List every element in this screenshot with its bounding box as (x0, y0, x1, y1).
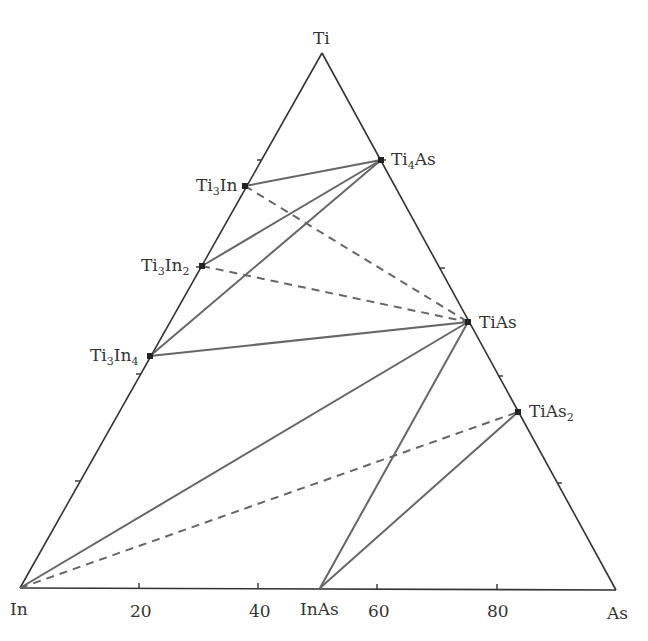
phase-label-tias: TiAs (479, 314, 517, 331)
triangle-edges (20, 53, 616, 590)
tie-inas-tias2 (320, 412, 518, 588)
phase-label-inas: InAs (300, 601, 339, 618)
point-tias2 (515, 409, 521, 415)
vertex-label-ti: Ti (313, 30, 330, 47)
ternary-diagram (0, 0, 648, 641)
tick-label-60: 60 (368, 603, 390, 620)
phase-label-ti3in2: Ti3In2 (141, 257, 189, 274)
tie-lines-solid (20, 160, 518, 588)
phase-label-tias2: TiAs2 (529, 403, 574, 420)
point-ti3in2 (199, 263, 205, 269)
tick-label-20: 20 (130, 603, 152, 620)
vertex-label-as: As (607, 605, 628, 622)
phase-label-ti4as: Ti4As (391, 151, 436, 168)
tie-in-tias2 (20, 412, 518, 588)
right-ticks (381, 160, 562, 483)
edge-in-ti (20, 53, 322, 588)
tie-in-tias (20, 322, 468, 588)
point-ti3in (242, 183, 248, 189)
tick-label-40: 40 (249, 603, 271, 620)
tie-ti3in2-tias (202, 266, 468, 322)
point-ti4as (378, 157, 384, 163)
phase-label-ti3in4: Ti3In4 (90, 347, 138, 364)
tick-label-80: 80 (487, 603, 509, 620)
point-tias (465, 319, 471, 325)
tie-lines-dashed (20, 186, 518, 588)
phase-label-ti3in: Ti3In (196, 177, 237, 194)
point-ti3in4 (147, 353, 153, 359)
vertex-label-in: In (10, 601, 28, 618)
phase-points (147, 157, 521, 415)
tie-ti3in-tias (245, 186, 468, 322)
edge-in-as (20, 588, 616, 590)
